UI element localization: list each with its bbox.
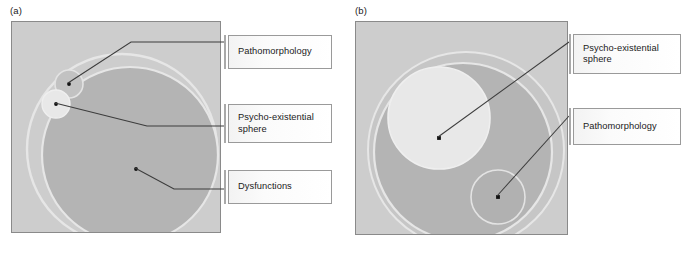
callout-psycho-existential-sphere[interactable]: Psycho-existential sphere [573,34,681,74]
callout-psycho-existential-sphere-text: Psycho-existential sphere [583,43,659,66]
leader-line-pathomorphology [68,42,224,83]
accent-bar-psycho-existential [569,34,571,74]
callout-psycho-existential-sphere[interactable]: Psycho-existential sphere [228,104,332,143]
callout-pathomorphology[interactable]: Pathomorphology [228,35,332,69]
panel-a: (a) [0,0,344,255]
callout-dysfunctions[interactable]: Dysfunctions [228,170,332,204]
callout-pathomorphology-text: Pathomorphology [583,121,657,133]
leader-line-pathomorphology [497,116,569,196]
callout-psycho-existential-sphere-text: Psycho-existential sphere [238,112,314,135]
leader-line-psycho-existential [438,42,569,137]
callout-pathomorphology-text: Pathomorphology [238,46,312,58]
accent-bar-pathomorphology [224,35,226,69]
accent-bar-dysfunctions [224,170,226,204]
figure-root: (a) [0,0,689,255]
callout-dysfunctions-text: Dysfunctions [238,181,292,193]
leader-line-psycho-existential [55,103,224,126]
accent-bar-pathomorphology [569,108,571,145]
callout-pathomorphology[interactable]: Pathomorphology [573,108,681,145]
leader-line-dysfunctions [135,168,224,189]
panel-b: (b) Psycho-existenti [345,0,689,255]
accent-bar-psycho-existential [224,104,226,143]
